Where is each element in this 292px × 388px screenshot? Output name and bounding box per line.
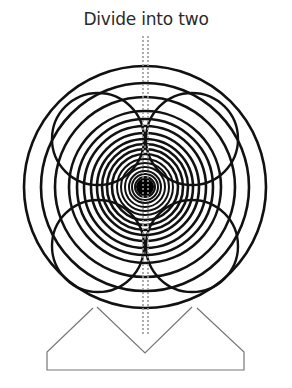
- center-dot: [136, 178, 154, 196]
- base-stand-outline: [47, 307, 244, 370]
- concentric-circles-diagram: [0, 0, 292, 388]
